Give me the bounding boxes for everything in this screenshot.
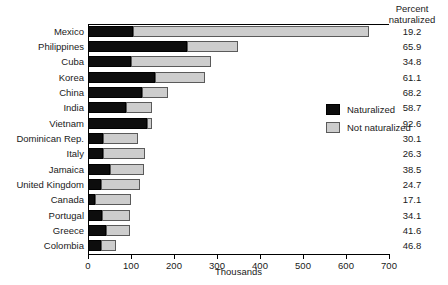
category-label: Jamaica (49, 164, 84, 175)
bar-row (88, 164, 389, 175)
category-label: Dominican Rep. (16, 133, 84, 144)
x-tick-mark (131, 254, 132, 259)
percent-header-line1: Percent (379, 3, 445, 14)
percent-value: 24.7 (379, 179, 445, 190)
bar-row (88, 225, 389, 236)
percent-value: 34.1 (379, 210, 445, 221)
bar-segment-not-naturalized (126, 102, 153, 113)
bar-segment-naturalized (88, 148, 103, 159)
bar-segment-naturalized (88, 240, 101, 251)
category-label: Colombia (44, 240, 84, 251)
bar-segment-naturalized (88, 102, 126, 113)
percent-value: 26.3 (379, 148, 445, 159)
x-tick-mark (346, 254, 347, 259)
percent-value: 65.9 (379, 41, 445, 52)
bar-segment-not-naturalized (155, 72, 205, 83)
category-label: Greece (53, 225, 84, 236)
x-axis-line (88, 254, 389, 255)
bar-segment-naturalized (88, 87, 142, 98)
bar-row (88, 26, 389, 37)
bar-row (88, 72, 389, 83)
plot-area: 0100200300400500600700 Naturalized Not n… (88, 24, 389, 254)
x-tick-mark (260, 254, 261, 259)
bar-segment-naturalized (88, 210, 102, 221)
category-label: Portugal (49, 210, 84, 221)
bar-segment-naturalized (88, 179, 101, 190)
x-tick-mark (174, 254, 175, 259)
percent-value: 68.2 (379, 87, 445, 98)
percent-value: 41.6 (379, 225, 445, 236)
bar-segment-naturalized (88, 26, 133, 37)
x-tick-mark (303, 254, 304, 259)
bar-segment-not-naturalized (106, 225, 131, 236)
bar-segment-naturalized (88, 194, 95, 205)
percent-value: 17.1 (379, 194, 445, 205)
percent-value: 34.8 (379, 56, 445, 67)
bar-segment-not-naturalized (131, 56, 211, 67)
percent-value: 46.8 (379, 240, 445, 251)
bar-row (88, 210, 389, 221)
bar-segment-naturalized (88, 225, 106, 236)
percent-value: 92.6 (379, 118, 445, 129)
bar-segment-not-naturalized (101, 179, 141, 190)
category-label: Korea (59, 72, 84, 83)
bar-segment-naturalized (88, 56, 131, 67)
category-label: Cuba (61, 56, 84, 67)
bar-row (88, 87, 389, 98)
bar-segment-not-naturalized (103, 148, 145, 159)
category-label: Vietnam (49, 118, 84, 129)
percent-value: 19.2 (379, 26, 445, 37)
percent-column-header: Percent naturalized (379, 3, 445, 25)
x-tick-mark (217, 254, 218, 259)
bar-segment-not-naturalized (187, 41, 238, 52)
category-label: China (59, 87, 84, 98)
x-tick-mark (88, 254, 89, 259)
bar-row (88, 41, 389, 52)
percent-value: 61.1 (379, 72, 445, 83)
chart-figure: Percent naturalized 01002003004005006007… (0, 0, 448, 285)
bar-segment-not-naturalized (133, 26, 369, 37)
bar-row (88, 240, 389, 251)
bar-segment-not-naturalized (142, 87, 167, 98)
bar-segment-not-naturalized (102, 210, 130, 221)
bar-segment-not-naturalized (103, 133, 138, 144)
category-label: Philippines (38, 41, 84, 52)
category-label: Canada (51, 194, 84, 205)
bar-segment-naturalized (88, 41, 187, 52)
x-tick-mark (389, 254, 390, 259)
legend-swatch-naturalized (326, 104, 340, 115)
bar-segment-naturalized (88, 133, 103, 144)
bar-row (88, 179, 389, 190)
bar-segment-naturalized (88, 164, 110, 175)
category-label: United Kingdom (16, 179, 84, 190)
bar-segment-not-naturalized (101, 240, 116, 251)
bar-row (88, 194, 389, 205)
bar-segment-not-naturalized (95, 194, 130, 205)
x-axis-title: Thousands (88, 266, 389, 277)
percent-value: 30.1 (379, 133, 445, 144)
bar-segment-naturalized (88, 118, 147, 129)
bar-segment-not-naturalized (110, 164, 144, 175)
percent-value: 38.5 (379, 164, 445, 175)
bar-segment-naturalized (88, 72, 155, 83)
category-label: Italy (67, 148, 84, 159)
legend-swatch-not-naturalized (326, 122, 340, 133)
percent-value: 58.7 (379, 102, 445, 113)
bar-segment-not-naturalized (147, 118, 152, 129)
bar-row (88, 148, 389, 159)
category-label: Mexico (54, 26, 84, 37)
category-label: India (63, 102, 84, 113)
bar-row (88, 56, 389, 67)
